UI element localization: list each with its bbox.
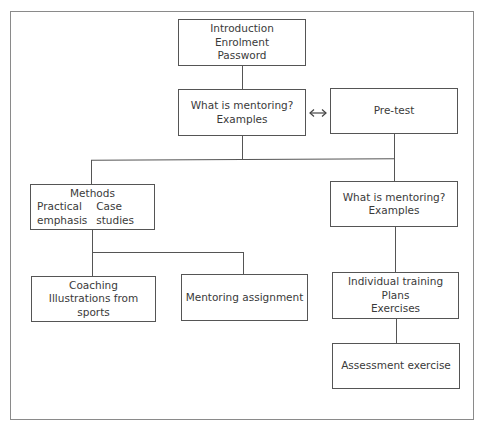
node-mentoring-assignment: Mentoring assignment (181, 274, 308, 321)
connector-to-methods (91, 160, 92, 184)
node-line: Individual training (348, 275, 443, 289)
node-title: Methods (70, 187, 115, 201)
node-what-is-mentoring-right: What is mentoring? Examples (330, 181, 458, 227)
node-what-is-mentoring-left: What is mentoring? Examples (178, 89, 306, 136)
bidirectional-arrow-icon (308, 106, 328, 120)
node-line: Practical (37, 200, 87, 214)
node-individual-training: Individual training Plans Exercises (332, 272, 459, 319)
node-line: Examples (368, 204, 419, 218)
node-line: What is mentoring? (343, 191, 446, 205)
connector-individual-assessment (396, 319, 397, 343)
node-line: Enrolment (215, 36, 269, 50)
node-methods: Methods Practical emphasis Case studies (30, 184, 155, 230)
node-line: Password (217, 49, 266, 63)
node-line: Coaching (69, 279, 118, 293)
connector-what-down (242, 136, 243, 160)
connector-to-mentoring-assignment (243, 252, 244, 274)
node-line: Exercises (371, 302, 420, 316)
node-line: Introduction (210, 22, 274, 36)
connector-methods-branch (92, 252, 244, 253)
connector-what-right-down (395, 227, 396, 272)
node-pre-test: Pre-test (330, 88, 458, 134)
node-line: Plans (382, 289, 410, 303)
methods-col-case-studies: Case studies (96, 200, 134, 227)
connector-intro-what (242, 65, 243, 89)
node-line: emphasis (37, 214, 87, 228)
node-line: What is mentoring? (191, 99, 294, 113)
node-line: Examples (216, 113, 267, 127)
node-assessment-exercise: Assessment exercise (332, 343, 460, 389)
methods-col-practical: Practical emphasis (37, 200, 87, 227)
node-line: studies (96, 214, 134, 228)
node-line: Pre-test (374, 104, 415, 118)
node-line: Assessment exercise (341, 359, 451, 373)
node-line: Case (96, 200, 134, 214)
node-coaching: Coaching Illustrations from sports (31, 276, 156, 322)
node-line: Illustrations from sports (32, 292, 155, 319)
node-line: Mentoring assignment (186, 291, 304, 305)
node-introduction: Introduction Enrolment Password (178, 19, 306, 66)
